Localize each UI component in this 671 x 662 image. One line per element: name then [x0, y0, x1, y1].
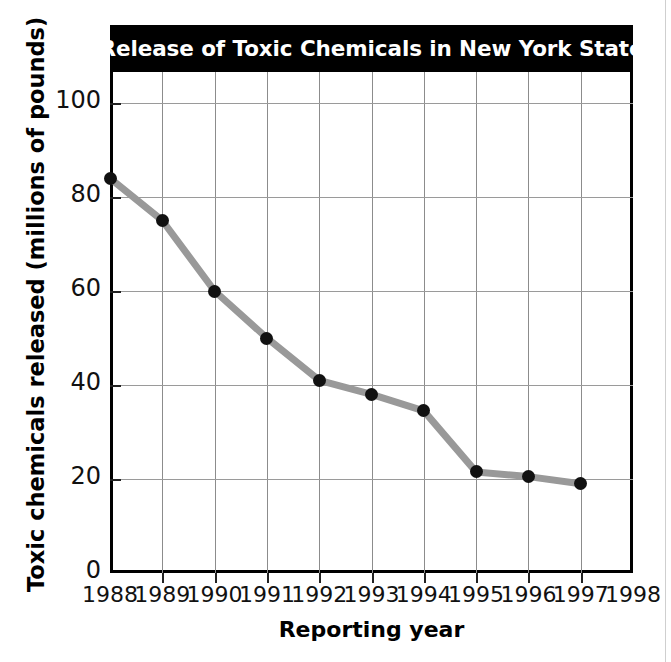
x-axis-tick-label: 1998	[601, 582, 665, 607]
horizontal-gridline	[110, 385, 633, 386]
vertical-gridline	[162, 72, 163, 573]
y-axis-tick-label: 80	[5, 180, 101, 208]
y-axis-tick	[110, 103, 121, 105]
vertical-gridline	[267, 72, 268, 573]
y-axis-title: Toxic chemicals released (millions of po…	[23, 82, 49, 592]
horizontal-gridline	[110, 479, 633, 480]
y-axis-tick-label: 0	[5, 556, 101, 584]
x-axis-title: Reporting year	[110, 617, 633, 642]
y-axis-tick-label: 20	[5, 462, 101, 490]
vertical-gridline	[476, 72, 477, 573]
horizontal-gridline	[110, 197, 633, 198]
y-axis-tick-label: 60	[5, 274, 101, 302]
y-axis-tick	[110, 479, 121, 481]
vertical-gridline	[424, 72, 425, 573]
vertical-gridline	[581, 72, 582, 573]
vertical-gridline	[528, 72, 529, 573]
y-axis-tick-label: 40	[5, 368, 101, 396]
vertical-gridline	[215, 72, 216, 573]
vertical-gridline	[319, 72, 320, 573]
horizontal-gridline	[110, 103, 633, 104]
chart-figure: Release of Toxic Chemicals in New York S…	[0, 0, 671, 662]
y-axis-tick	[110, 291, 121, 293]
page-edge-rule	[665, 0, 666, 662]
vertical-gridline	[372, 72, 373, 573]
chart-title: Release of Toxic Chemicals in New York S…	[99, 36, 643, 61]
chart-title-banner: Release of Toxic Chemicals in New York S…	[110, 25, 633, 72]
y-axis-tick	[110, 197, 121, 199]
horizontal-gridline	[110, 291, 633, 292]
gridlines	[110, 72, 633, 573]
y-axis-tick	[110, 385, 121, 387]
y-axis-tick-label: 100	[5, 86, 101, 114]
